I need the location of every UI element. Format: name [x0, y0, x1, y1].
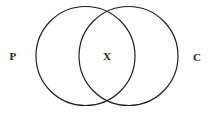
left-set-label: P [10, 51, 17, 62]
right-set-label: C [193, 52, 201, 63]
intersection-label: X [103, 51, 111, 62]
venn-diagram-figure: P X C [0, 0, 214, 113]
left-set-circle [36, 7, 135, 106]
right-set-circle [79, 7, 178, 106]
